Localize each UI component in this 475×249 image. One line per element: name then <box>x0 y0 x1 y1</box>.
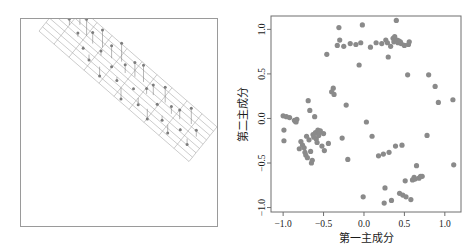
data-point <box>360 22 365 27</box>
figure-container: −1.0−0.50.00.51.0 −1.0−0.50.00.51.0 第一主成… <box>0 0 475 249</box>
data-point-3d <box>179 128 182 131</box>
data-point <box>287 115 292 120</box>
mesh-line-v <box>43 27 193 157</box>
data-point <box>386 150 391 155</box>
mesh-line-v <box>50 19 200 148</box>
data-point <box>331 86 336 91</box>
y-tick-label: 1.0 <box>257 23 267 35</box>
y-tick-label: −0.5 <box>257 154 267 171</box>
data-point <box>294 117 299 122</box>
y-tick-label: 0.0 <box>257 112 267 124</box>
data-point-3d <box>76 32 79 35</box>
data-point <box>324 52 329 57</box>
data-point <box>408 197 413 202</box>
mesh-line-v <box>57 19 207 140</box>
data-point <box>382 200 387 205</box>
data-point-3d <box>68 19 71 21</box>
data-point-3d <box>156 103 159 106</box>
x-tick-label: 1.0 <box>439 219 451 229</box>
data-point <box>376 153 381 158</box>
data-point-3d <box>85 19 88 21</box>
y-tick-label: 0.5 <box>257 68 267 80</box>
data-point <box>305 155 310 160</box>
data-point <box>341 44 346 49</box>
data-point <box>433 84 438 89</box>
data-point-3d <box>110 44 113 47</box>
data-point <box>307 108 312 113</box>
data-point <box>374 40 379 45</box>
data-point <box>407 39 412 44</box>
data-point <box>312 114 317 119</box>
data-point <box>306 98 311 103</box>
residual-lines-group <box>65 19 196 145</box>
data-point <box>335 43 340 48</box>
data-point <box>450 97 455 102</box>
data-point-3d <box>124 63 127 66</box>
data-point <box>369 134 374 139</box>
data-point-3d <box>142 64 145 67</box>
x-tick-label: 0.0 <box>358 219 370 229</box>
data-point-3d <box>120 98 123 101</box>
data-point <box>420 174 425 179</box>
data-point <box>336 25 341 30</box>
mesh-line-v <box>67 19 217 127</box>
data-point-3d <box>146 117 149 120</box>
data-point-3d <box>100 49 103 52</box>
data-point-3d <box>164 86 167 89</box>
data-point <box>379 41 384 46</box>
data-point <box>306 137 311 142</box>
data-point <box>345 157 350 162</box>
x-tick-label: −1.0 <box>275 219 292 229</box>
y-axis-ticks <box>267 29 271 207</box>
y-axis-tick-labels: −1.0−0.50.00.51.0 <box>257 23 267 216</box>
data-point <box>308 149 313 154</box>
mesh-line-u <box>39 19 67 31</box>
data-point-3d <box>161 119 164 122</box>
plot-panel-pca-scatter: −1.0−0.50.00.51.0 −1.0−0.50.00.51.0 第一主成… <box>236 6 475 249</box>
data-point <box>314 140 319 145</box>
data-point-3d <box>170 105 173 108</box>
data-point <box>405 72 410 77</box>
plot-3d-svg <box>21 19 217 226</box>
data-point <box>368 45 373 50</box>
data-point <box>358 40 363 45</box>
y-tick-label: −1.0 <box>257 199 267 216</box>
data-point <box>340 135 345 140</box>
data-point <box>361 194 366 199</box>
data-point <box>388 44 393 49</box>
data-point <box>451 162 456 167</box>
x-tick-label: −0.5 <box>315 219 332 229</box>
data-point-3d <box>195 129 198 132</box>
data-point <box>426 72 431 77</box>
data-point <box>322 148 327 153</box>
data-point <box>403 194 408 199</box>
data-point <box>348 41 353 46</box>
mesh-line-v <box>53 19 203 144</box>
data-point <box>337 37 342 42</box>
data-point-3d <box>115 79 118 82</box>
data-point <box>302 145 307 150</box>
pca-scatter-svg: −1.0−0.50.00.51.0 −1.0−0.50.00.51.0 第一主成… <box>236 6 475 249</box>
data-point-3d <box>137 103 140 106</box>
data-point <box>281 138 286 143</box>
data-point <box>319 143 324 148</box>
data-point <box>403 178 408 183</box>
data-points-3d-group <box>64 19 198 146</box>
data-point-3d <box>101 28 104 31</box>
data-point-3d <box>133 61 136 64</box>
data-points-group <box>281 18 457 206</box>
data-point <box>353 42 358 47</box>
data-point <box>399 143 404 148</box>
data-point <box>414 163 419 168</box>
mesh-line-v <box>39 31 189 161</box>
y-axis-title: 第二主成分 <box>236 87 249 142</box>
data-point <box>357 62 362 67</box>
data-point <box>364 119 369 124</box>
data-point-3d <box>166 132 169 135</box>
x-axis-title: 第一主成分 <box>339 231 394 244</box>
x-axis-tick-labels: −1.0−0.50.00.51.0 <box>275 219 452 229</box>
data-point <box>331 92 336 97</box>
data-point-3d <box>190 107 193 110</box>
data-point <box>344 102 349 107</box>
data-point <box>386 54 391 59</box>
